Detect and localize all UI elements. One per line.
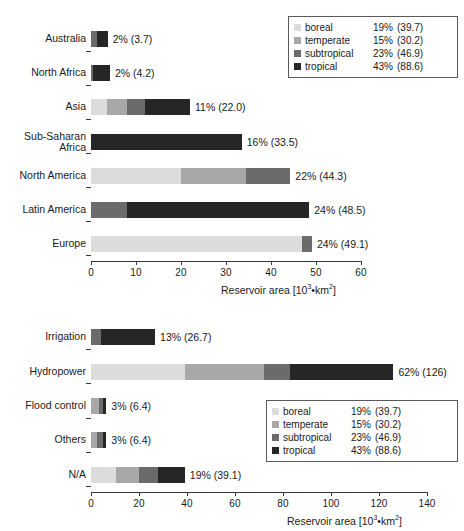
bar-segment-subtropical[interactable] — [139, 467, 158, 483]
x-tick-60 — [361, 261, 362, 265]
bar-segment-tropical[interactable] — [103, 432, 106, 448]
bar-segment-boreal[interactable] — [91, 364, 185, 380]
x-tick-label-40: 40 — [181, 498, 192, 509]
legend-percent-tropical: 43% — [345, 445, 371, 456]
bar-segment-subtropical[interactable] — [91, 202, 127, 218]
bar-value-label: 24% (48.5) — [314, 204, 365, 216]
bar-asia[interactable] — [91, 99, 190, 115]
legend-swatch-subtropical-icon — [272, 434, 279, 441]
bar-segment-subtropical[interactable] — [264, 364, 290, 380]
legend-row-subtropical[interactable]: subtropical23%(46.9) — [294, 47, 451, 60]
legend-row-temperate[interactable]: temperate15%(30.2) — [294, 34, 451, 47]
bar-segment-tropical[interactable] — [91, 134, 242, 150]
bar-n-a[interactable] — [91, 467, 185, 483]
bar-value-label: 13% (26.7) — [160, 331, 211, 343]
bar-segment-tropical[interactable] — [101, 329, 155, 345]
bar-value-label: 19% (39.1) — [190, 469, 241, 481]
category-label-hydropower: Hydropower — [29, 366, 86, 378]
category-label-others: Others — [54, 435, 86, 447]
x-tick-label-80: 80 — [277, 498, 288, 509]
bar-others[interactable] — [91, 432, 106, 448]
legend-row-tropical[interactable]: tropical43%(88.6) — [294, 60, 451, 73]
bar-segment-tropical[interactable] — [158, 467, 185, 483]
category-label-north-america: North America — [19, 170, 86, 182]
legend-label-subtropical: subtropical — [305, 48, 367, 59]
bar-segment-boreal[interactable] — [91, 236, 302, 252]
bar-segment-temperate[interactable] — [181, 168, 246, 184]
legend-value-boreal: (39.7) — [375, 406, 401, 417]
y-tick-3 — [86, 153, 91, 154]
bar-value-label: 2% (4.2) — [115, 67, 155, 79]
bar-north-africa[interactable] — [91, 65, 110, 81]
y-tick-1 — [86, 85, 91, 86]
bar-segment-subtropical[interactable] — [127, 99, 145, 115]
x-axis-line — [91, 492, 427, 493]
legend-swatch-tropical-icon — [294, 63, 301, 70]
legend-value-subtropical: (46.9) — [375, 432, 401, 443]
x-tick-label-20: 20 — [133, 498, 144, 509]
legend-row-subtropical[interactable]: subtropical23%(46.9) — [272, 431, 451, 444]
category-label-australia: Australia — [45, 33, 86, 45]
x-tick-label-60: 60 — [355, 267, 366, 278]
legend-value-tropical: (88.6) — [375, 445, 401, 456]
bar-value-label: 3% (6.4) — [111, 434, 151, 446]
bar-australia[interactable] — [91, 31, 108, 47]
bar-segment-tropical[interactable] — [93, 65, 110, 81]
x-tick-label-50: 50 — [310, 267, 321, 278]
bar-flood-control[interactable] — [91, 398, 106, 414]
bar-segment-temperate[interactable] — [116, 467, 139, 483]
x-tick-label-100: 100 — [323, 498, 340, 509]
bar-hydropower[interactable] — [91, 364, 393, 380]
legend-percent-subtropical: 23% — [367, 48, 393, 59]
bar-segment-subtropical[interactable] — [91, 329, 101, 345]
category-label-asia: Asia — [66, 102, 86, 114]
bar-segment-tropical[interactable] — [97, 31, 107, 47]
bar-segment-tropical[interactable] — [145, 99, 190, 115]
bar-segment-subtropical[interactable] — [246, 168, 290, 184]
legend-value-boreal: (39.7) — [397, 22, 423, 33]
bar-latin-america[interactable] — [91, 202, 309, 218]
legend-row-boreal[interactable]: boreal19%(39.7) — [272, 405, 451, 418]
y-tick-4 — [86, 486, 91, 487]
bar-segment-temperate[interactable] — [91, 398, 99, 414]
bar-north-america[interactable] — [91, 168, 290, 184]
legend-row-boreal[interactable]: boreal19%(39.7) — [294, 21, 451, 34]
legend-row-temperate[interactable]: temperate15%(30.2) — [272, 418, 451, 431]
legend-value-temperate: (30.2) — [375, 419, 401, 430]
y-tick-3 — [86, 452, 91, 453]
legend-value-tropical: (88.6) — [397, 61, 423, 72]
bar-segment-temperate[interactable] — [107, 99, 128, 115]
bar-sub-saharan-africa[interactable] — [91, 134, 242, 150]
legend-swatch-boreal-icon — [272, 408, 279, 415]
bar-value-label: 16% (33.5) — [247, 136, 298, 148]
category-label-n-a: N/A — [68, 469, 86, 481]
y-tick-0 — [86, 349, 91, 350]
legend-label-subtropical: subtropical — [283, 432, 345, 443]
legend-label-boreal: boreal — [283, 406, 345, 417]
bar-segment-temperate[interactable] — [185, 364, 264, 380]
category-label-irrigation: Irrigation — [45, 331, 86, 343]
legend-label-tropical: tropical — [305, 61, 367, 72]
y-tick-0 — [86, 51, 91, 52]
bar-irrigation[interactable] — [91, 329, 155, 345]
category-label-north-africa: North Africa — [31, 67, 86, 79]
bar-segment-subtropical[interactable] — [302, 236, 312, 252]
bar-segment-boreal[interactable] — [91, 99, 107, 115]
legend-percent-tropical: 43% — [367, 61, 393, 72]
legend-swatch-tropical-icon — [272, 447, 279, 454]
category-label-flood-control: Flood control — [25, 400, 86, 412]
bar-segment-tropical[interactable] — [290, 364, 393, 380]
legend-percent-boreal: 19% — [345, 406, 371, 417]
y-tick-2 — [86, 418, 91, 419]
bar-europe[interactable] — [91, 236, 312, 252]
legend-row-tropical[interactable]: tropical43%(88.6) — [272, 444, 451, 457]
x-tick-label-60: 60 — [229, 498, 240, 509]
bar-segment-tropical[interactable] — [103, 398, 106, 414]
legend-percent-temperate: 15% — [345, 419, 371, 430]
bar-segment-boreal[interactable] — [91, 467, 116, 483]
x-axis-title: Reservoir area [103•km2] — [221, 283, 336, 296]
bar-segment-tropical[interactable] — [127, 202, 309, 218]
legend-swatch-boreal-icon — [294, 24, 301, 31]
bar-segment-boreal[interactable] — [91, 168, 181, 184]
legend-label-temperate: temperate — [305, 35, 367, 46]
